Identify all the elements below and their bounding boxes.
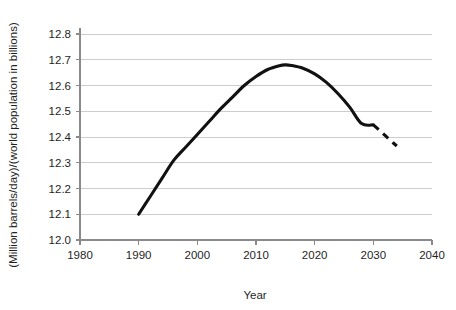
x-axis-title: Year <box>243 289 266 301</box>
y-tick-label: 12.5 <box>49 105 71 117</box>
y-tick-label: 12.2 <box>49 183 71 195</box>
line-chart: 12.012.112.212.312.412.512.612.712.8 198… <box>0 0 456 310</box>
y-tick-label: 12.1 <box>49 208 71 220</box>
x-tick-label: 2000 <box>185 249 211 261</box>
x-tick-label: 2020 <box>302 249 328 261</box>
x-tick-label: 2030 <box>361 249 387 261</box>
x-tick-label: 2010 <box>243 249 269 261</box>
chart-background <box>0 0 456 310</box>
x-tick-label: 1980 <box>67 249 93 261</box>
chart-container: 12.012.112.212.312.412.512.612.712.8 198… <box>0 0 456 310</box>
x-tick-label: 1990 <box>126 249 152 261</box>
y-tick-label: 12.0 <box>49 234 71 246</box>
y-tick-label: 12.3 <box>49 157 71 169</box>
y-tick-label: 12.4 <box>49 131 72 143</box>
y-tick-label: 12.6 <box>49 80 71 92</box>
y-axis-title: (Million barrels/day)/(world population … <box>7 22 19 268</box>
y-tick-label: 12.7 <box>49 54 71 66</box>
y-tick-label: 12.8 <box>49 28 71 40</box>
x-tick-label: 2040 <box>419 249 445 261</box>
